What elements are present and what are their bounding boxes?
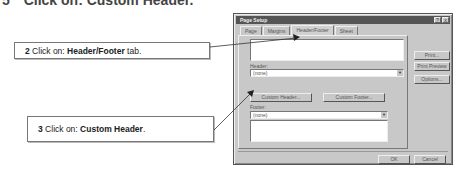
- tab-margins[interactable]: Margins: [263, 26, 291, 35]
- dialog-titlebar[interactable]: Page Setup ? x: [236, 16, 450, 24]
- footer-label: Footer:: [250, 104, 266, 110]
- step-2-text: Click on:: [32, 46, 65, 56]
- step-2-suffix: tab.: [127, 46, 141, 56]
- cancel-button[interactable]: Cancel: [414, 155, 446, 164]
- step-3-bold: Custom Header: [80, 124, 143, 134]
- custom-footer-button[interactable]: Custom Footer...: [323, 93, 385, 102]
- header-dropdown-value: (none): [253, 70, 267, 76]
- step-3-suffix: .: [143, 124, 145, 134]
- ok-button[interactable]: OK: [378, 155, 410, 164]
- options-button[interactable]: Options...: [414, 75, 450, 84]
- page-setup-dialog: Page Setup ? x Page Margins Header/Foote…: [233, 13, 453, 165]
- tab-header-footer[interactable]: Header/Footer: [291, 25, 333, 35]
- custom-header-button[interactable]: Custom Header...: [250, 93, 312, 102]
- step-2-number: 2: [25, 46, 30, 56]
- step-2-callout: 2 Click on: Header/Footer tab.: [14, 42, 210, 59]
- tab-page[interactable]: Page: [240, 26, 262, 35]
- step-3-text: Click on:: [45, 124, 78, 134]
- tab-sheet[interactable]: Sheet: [335, 26, 358, 35]
- help-icon[interactable]: ?: [434, 17, 441, 23]
- step-3-number: 3: [38, 124, 43, 134]
- footer-dropdown[interactable]: (none) ▼: [250, 111, 388, 119]
- footer-dropdown-value: (none): [253, 112, 267, 118]
- print-button[interactable]: Print...: [414, 51, 450, 60]
- chevron-down-icon[interactable]: ▼: [397, 70, 403, 76]
- step-1-text: Click on:: [24, 0, 83, 8]
- chevron-down-icon[interactable]: ▼: [381, 112, 387, 118]
- step-3-callout: 3 Click on: Custom Header .: [27, 116, 214, 142]
- dialog-title: Page Setup: [240, 17, 267, 23]
- divider: [238, 151, 448, 152]
- close-icon[interactable]: x: [442, 17, 449, 23]
- step-1-bold: Custom Header.: [87, 0, 194, 8]
- header-dropdown[interactable]: (none) ▼: [250, 69, 404, 77]
- step-1-heading: 5 Click on: Custom Header.: [2, 0, 193, 8]
- step-1-bullet: 5: [2, 0, 10, 8]
- dialog-tabs: Page Margins Header/Footer Sheet: [240, 26, 359, 35]
- print-preview-button[interactable]: Print Preview: [414, 62, 450, 71]
- header-preview: [250, 39, 404, 61]
- footer-preview: [250, 120, 388, 142]
- step-2-bold: Header/Footer: [67, 46, 125, 56]
